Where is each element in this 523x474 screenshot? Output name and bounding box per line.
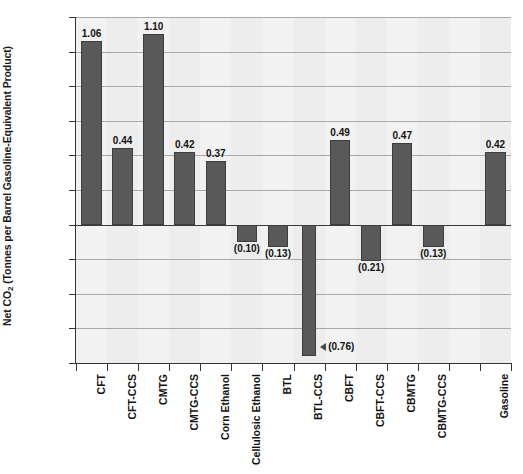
x-tick-label: CMTG-CCS [189,374,200,431]
bar-value-label: 0.37 [192,148,239,159]
gridline [76,294,511,295]
annotation-label: (0.76) [328,341,354,352]
x-tick-label: CFT [96,374,107,394]
bar [143,34,164,224]
x-tick-mark [138,363,139,371]
y-tick-mark [69,52,76,53]
gridline [76,121,511,122]
left-triangle-icon [320,343,326,351]
bar [485,152,506,225]
x-tick-mark [356,363,357,371]
y-tick-mark [69,121,76,122]
y-axis-title-container: Net CO2 (Tonnes per Barrel Gasoline-Equi… [0,0,22,380]
x-tick-mark [449,363,450,371]
y-tick-mark [69,259,76,260]
bar-value-label: 0.44 [99,135,146,146]
x-tick-label: BTL [282,374,293,394]
zero-line [76,225,511,226]
bar-value-label: (0.13) [254,248,301,259]
y-tick-mark [69,86,76,87]
x-tick-mark [231,363,232,371]
bar [268,225,289,247]
x-tick-label: Cellulosic Ethanol [251,374,262,465]
x-tick-mark [511,363,512,371]
bar-value-label: (0.13) [410,248,457,259]
y-axis-title: Net CO2 (Tonnes per Barrel Gasoline-Equi… [0,0,16,372]
bar [392,143,413,224]
x-tick-mark [262,363,263,371]
bar [423,225,444,247]
x-tick-mark [480,363,481,371]
bar [206,161,227,225]
bar-value-label: (0.21) [348,262,395,273]
bar [81,41,102,224]
gridline [76,155,511,156]
bar [237,225,258,242]
bar-value-label: 0.49 [317,127,364,138]
bar [112,148,133,224]
gridline [76,86,511,87]
x-tick-label: CBMTG-CCS [437,374,448,438]
y-tick-mark [69,328,76,329]
bar-value-label: 1.10 [130,21,177,32]
gridline [76,17,511,18]
gridline [76,259,511,260]
y-axis-title-subscript: 2 [6,287,15,291]
y-tick-mark [69,155,76,156]
x-tick-label: Corn Ethanol [220,374,231,440]
x-tick-label: CFT-CCS [127,374,138,420]
bar [330,140,351,225]
gridline [76,52,511,53]
y-tick-mark [69,294,76,295]
value-annotation: (0.76) [320,341,354,352]
y-axis-title-prefix: Net CO [1,291,13,326]
x-tick-label: BTL-CCS [313,374,324,420]
y-tick-mark [69,363,76,364]
gridline [76,328,511,329]
bar [302,225,316,356]
bar [361,225,382,261]
gridline [76,190,511,191]
chart-figure: Net CO2 (Tonnes per Barrel Gasoline-Equi… [0,0,523,474]
y-tick-mark [69,190,76,191]
x-tick-mark [107,363,108,371]
x-tick-label: CBFT-CCS [375,374,386,427]
bar-value-label: 0.42 [472,139,519,150]
x-tick-mark [169,363,170,371]
x-tick-label: CBFT [344,374,355,402]
y-tick-mark [69,225,76,226]
y-tick-mark [69,17,76,18]
bar-value-label: 0.47 [379,130,426,141]
x-tick-mark [325,363,326,371]
y-axis-title-suffix: (Tonnes per Barrel Gasoline-Equivalent P… [1,46,13,287]
x-tick-mark [294,363,295,371]
x-tick-label: CBMTG [406,374,417,413]
x-tick-mark [76,363,77,371]
x-tick-mark [418,363,419,371]
x-tick-label: CMTG [158,374,169,405]
plot-area: 1.060.441.100.420.37(0.10)(0.13)0.49(0.2… [76,17,511,363]
x-tick-mark [387,363,388,371]
bar [174,152,195,225]
x-tick-mark [200,363,201,371]
x-tick-label: Gasoline [499,374,510,418]
